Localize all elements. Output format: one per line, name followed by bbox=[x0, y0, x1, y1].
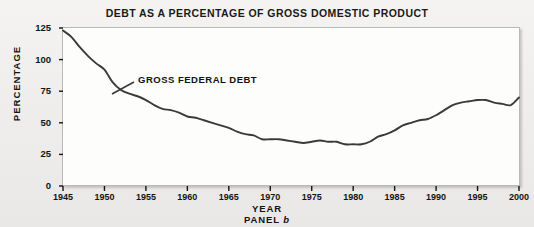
x-tick-label: 1990 bbox=[416, 192, 456, 202]
annotation-leader-line bbox=[112, 82, 134, 94]
x-tick-label: 1970 bbox=[250, 192, 290, 202]
y-tick-label: 50 bbox=[11, 117, 51, 128]
x-tick-label: 1960 bbox=[167, 192, 207, 202]
panel-label: PANEL b bbox=[0, 214, 534, 225]
y-tick-label: 100 bbox=[11, 54, 51, 65]
series-annotation-gross-federal-debt: GROSS FEDERAL DEBT bbox=[138, 74, 257, 85]
x-tick-label: 1945 bbox=[43, 192, 83, 202]
y-tick-label: 75 bbox=[11, 85, 51, 96]
x-tick-label: 1980 bbox=[333, 192, 373, 202]
series-line-gross-federal-debt bbox=[63, 31, 519, 145]
y-tick-label: 25 bbox=[11, 148, 51, 159]
y-tick-marks bbox=[59, 28, 63, 186]
y-tick-label: 125 bbox=[11, 22, 51, 33]
chart-figure: DEBT AS A PERCENTAGE OF GROSS DOMESTIC P… bbox=[0, 0, 534, 227]
x-tick-label: 1985 bbox=[375, 192, 415, 202]
x-tick-label: 1995 bbox=[458, 192, 498, 202]
x-tick-label: 1955 bbox=[126, 192, 166, 202]
x-tick-label: 2000 bbox=[499, 192, 534, 202]
x-tick-label: 1950 bbox=[84, 192, 124, 202]
x-tick-label: 1975 bbox=[292, 192, 332, 202]
x-tick-marks bbox=[63, 186, 519, 191]
x-axis-label: YEAR bbox=[0, 203, 534, 214]
x-tick-label: 1965 bbox=[209, 192, 249, 202]
y-tick-label: 0 bbox=[11, 180, 51, 191]
